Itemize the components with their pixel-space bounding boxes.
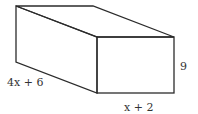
height-label: 9 bbox=[180, 60, 187, 73]
rectangular-prism-diagram: 4x + 6 9 x + 2 bbox=[0, 0, 198, 114]
front-face bbox=[97, 37, 174, 93]
length-label: 4x + 6 bbox=[7, 76, 43, 89]
top-face bbox=[16, 6, 174, 37]
width-label: x + 2 bbox=[124, 101, 153, 114]
